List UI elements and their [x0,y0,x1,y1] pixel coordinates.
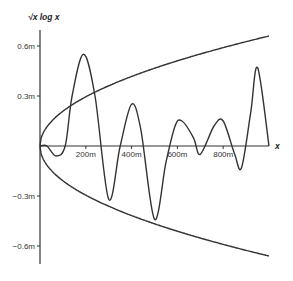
axes [40,30,269,264]
x-ticks: 200m400m600m800m [76,146,234,159]
chart-container: 0.6m0.3m−0.3m−0.6m 200m400m600m800m √x l… [0,0,293,281]
x-tick-label: 600m [167,150,187,159]
line-chart: 0.6m0.3m−0.3m−0.6m 200m400m600m800m √x l… [0,0,293,281]
oscillating-signal-line [40,54,269,219]
x-tick-label: 400m [122,150,142,159]
y-tick-label: −0.3m [13,192,36,201]
y-tick-label: −0.6m [13,242,36,251]
y-tick-label: 0.3m [17,92,35,101]
x-axis-title: x [274,141,281,151]
y-tick-label: 0.6m [17,42,35,51]
lower-envelope-line [40,146,269,256]
y-axis-title: √x log x [28,12,61,22]
y-ticks: 0.6m0.3m−0.3m−0.6m [13,42,40,251]
upper-envelope-line [40,36,269,146]
x-tick-label: 800m [213,150,233,159]
x-tick-label: 200m [76,150,96,159]
